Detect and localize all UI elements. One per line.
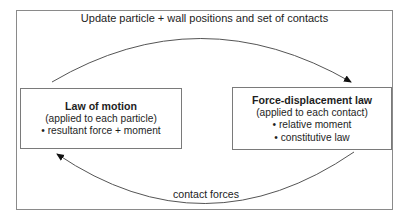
law-of-motion-title: Law of motion [21,100,181,113]
law-of-motion-subtitle: (applied to each particle) [21,113,181,126]
force-displacement-title: Force-displacement law [233,94,391,107]
force-displacement-box: Force-displacement law (applied to each … [232,87,392,150]
contact-forces-label: contact forces [168,188,244,200]
law-of-motion-box: Law of motion (applied to each particle)… [20,88,182,149]
force-displacement-subtitle: (applied to each contact) [233,107,391,120]
force-displacement-bullet-2: • constitutive law [233,132,391,145]
dem-calculation-cycle-diagram: Update particle + wall positions and set… [0,0,410,222]
law-of-motion-bullet: • resultant force + moment [21,125,181,138]
top-arc-arrow [52,39,351,83]
force-displacement-bullet-1: • relative moment [233,119,391,132]
